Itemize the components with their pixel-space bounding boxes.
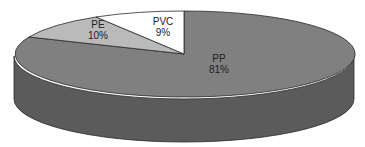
label-pe-percent: 10% bbox=[88, 30, 108, 41]
pie-chart: PE 10% PVC 9% PP 81% bbox=[0, 0, 365, 147]
label-pe: PE 10% bbox=[88, 19, 108, 41]
label-pvc: PVC 9% bbox=[153, 16, 174, 38]
label-pvc-percent: 9% bbox=[153, 27, 174, 38]
pie-chart-graphic bbox=[0, 0, 365, 147]
label-pp: PP 81% bbox=[209, 53, 229, 75]
label-pp-name: PP bbox=[209, 53, 229, 64]
label-pvc-name: PVC bbox=[153, 16, 174, 27]
label-pp-percent: 81% bbox=[209, 64, 229, 75]
label-pe-name: PE bbox=[88, 19, 108, 30]
